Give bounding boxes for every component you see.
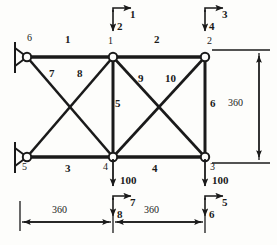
joint-node-2 [201,53,209,61]
member-label-7: 7 [49,68,55,79]
member-label-3: 3 [65,163,71,174]
member-label-6: 6 [210,98,216,109]
dof-label-3: 3 [222,9,228,20]
truss-diagram [0,0,277,245]
dof-label-6: 6 [209,209,215,220]
node-label-1: 1 [108,36,113,46]
node-label-5: 5 [22,162,27,172]
member-label-5: 5 [115,98,121,109]
dof-label-8: 8 [117,209,123,220]
joint-node-6 [23,53,31,61]
dof-label-7: 7 [130,197,136,208]
node-label-2: 2 [207,36,212,46]
node-label-4: 4 [103,162,108,172]
dof-label-1: 1 [130,9,136,20]
load-label-node-3: 100 [212,175,229,186]
dimension-label-vertical: 360 [228,98,243,108]
joint-node-5 [23,153,31,161]
member-label-9: 9 [138,73,144,84]
dimension-label-horizontal-left: 360 [52,205,67,215]
dof-label-4: 4 [209,21,215,32]
dof-label-5: 5 [222,197,228,208]
dimension-label-horizontal-right: 360 [144,205,159,215]
node-label-3: 3 [210,162,215,172]
member-label-10: 10 [165,73,176,84]
member-label-2: 2 [154,34,160,45]
member-label-1: 1 [65,34,71,45]
joint-node-1 [109,53,117,61]
node-label-6: 6 [27,33,32,43]
dof-label-2: 2 [117,21,123,32]
load-label-node-4: 100 [120,175,137,186]
member-label-4: 4 [152,163,158,174]
member-label-8: 8 [77,68,83,79]
